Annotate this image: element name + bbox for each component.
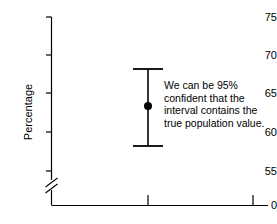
ci-annotation: We can be 95% confident that the interva…	[164, 79, 276, 129]
ci-annotation-line-2: confident that the	[164, 92, 276, 105]
point-estimate-marker	[144, 102, 152, 110]
ci-annotation-line-3: interval contains the	[164, 104, 276, 117]
confidence-interval-chart: Percentage 75 70 65 60 55 0	[0, 0, 277, 224]
ci-annotation-line-1: We can be 95%	[164, 79, 276, 92]
ci-annotation-line-4: true population value.	[164, 117, 276, 130]
